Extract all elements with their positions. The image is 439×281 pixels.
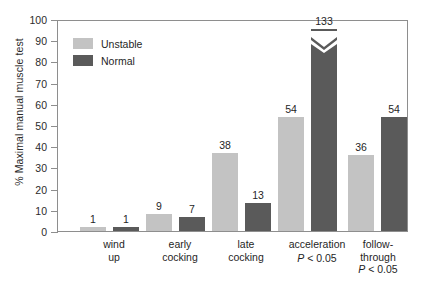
x-category-late-cocking-line2: cocking [228, 251, 264, 263]
legend: Unstable Normal [73, 36, 142, 70]
bar-acceleration-normal [311, 29, 337, 231]
y-tick-label-80: 80 [7, 56, 47, 68]
legend-label-unstable: Unstable [101, 38, 142, 50]
x-category-acceleration-line1: acceleration [289, 238, 346, 250]
x-category-wind-up-line2: up [108, 251, 120, 263]
bar-acceleration-unstable [278, 117, 304, 232]
bar-follow-through-unstable [348, 155, 374, 231]
bar-value-acceleration-normal: 133 [311, 15, 337, 27]
y-tick-label-70: 70 [7, 78, 47, 90]
legend-item-unstable: Unstable [73, 36, 142, 51]
y-tick-label-20: 20 [7, 184, 47, 196]
y-tick-label-60: 60 [7, 99, 47, 111]
bar-value-late-cocking-normal: 13 [245, 189, 271, 201]
legend-item-normal: Normal [73, 53, 142, 68]
x-category-label-follow-through: follow- through P < 0.05 [338, 238, 418, 276]
legend-swatch-unstable-icon [73, 38, 93, 49]
bar-value-follow-through-normal: 54 [381, 103, 407, 115]
bar-value-wind-up-unstable: 1 [80, 213, 106, 225]
y-tick-label-50: 50 [7, 120, 47, 132]
bar-value-early-cocking-unstable: 9 [146, 200, 172, 212]
y-tick-label-40: 40 [7, 141, 47, 153]
legend-swatch-normal-icon [73, 55, 93, 66]
legend-label-normal: Normal [101, 55, 135, 67]
x-category-wind-up-line1: wind [103, 238, 125, 250]
y-tick-label-90: 90 [7, 35, 47, 47]
bar-wind-up-normal [113, 227, 139, 231]
bar-value-follow-through-unstable: 36 [348, 141, 374, 153]
y-tick-label-30: 30 [7, 162, 47, 174]
bar-value-acceleration-unstable: 54 [278, 103, 304, 115]
bar-late-cocking-normal [245, 203, 271, 231]
bar-value-early-cocking-normal: 7 [179, 203, 205, 215]
y-tick-label-0: 0 [7, 226, 47, 238]
y-tick-label-10: 10 [7, 205, 47, 217]
x-category-late-cocking-line1: late [238, 238, 255, 250]
x-category-follow-through-line2: through [360, 251, 396, 263]
x-category-follow-through-line1: follow- [363, 238, 393, 250]
bar-early-cocking-normal [179, 217, 205, 231]
bar-value-wind-up-normal: 1 [113, 213, 139, 225]
bar-chart-figure: % Maximal manual muscle test 100 90 80 7… [0, 0, 439, 281]
bar-wind-up-unstable [80, 227, 106, 231]
x-category-early-cocking-line1: early [169, 238, 192, 250]
x-category-early-cocking-line2: cocking [162, 251, 198, 263]
y-tick-label-100: 100 [7, 14, 47, 26]
bar-early-cocking-unstable [146, 214, 172, 231]
bar-follow-through-normal [381, 117, 407, 232]
x-category-follow-through-pvalue: P < 0.05 [338, 263, 418, 276]
bar-value-late-cocking-unstable: 38 [212, 139, 238, 151]
bar-late-cocking-unstable [212, 153, 238, 231]
